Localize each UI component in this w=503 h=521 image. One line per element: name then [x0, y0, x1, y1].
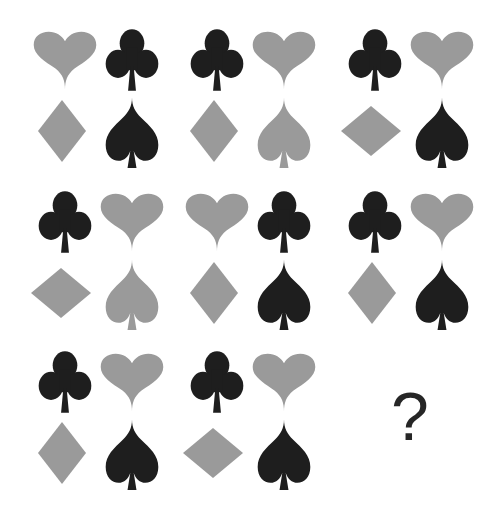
club-icon	[189, 350, 245, 414]
club-icon	[256, 190, 312, 254]
diamond-icon	[183, 428, 243, 478]
puzzle-cell-1	[33, 28, 158, 173]
heart-icon	[183, 192, 251, 254]
heart-icon	[250, 352, 318, 414]
heart-icon	[31, 30, 99, 92]
club-icon	[104, 28, 160, 92]
puzzle-cell-8	[185, 350, 310, 495]
missing-cell-question-mark: ?	[370, 382, 450, 450]
puzzle-cell-3	[343, 28, 468, 173]
diamond-icon	[190, 100, 238, 162]
heart-icon	[408, 30, 476, 92]
spade-icon	[256, 418, 312, 490]
heart-icon	[408, 192, 476, 254]
heart-icon	[98, 352, 166, 414]
spade-icon	[104, 258, 160, 330]
diamond-icon	[38, 422, 86, 484]
club-icon	[347, 190, 403, 254]
club-icon	[189, 28, 245, 92]
spade-icon	[256, 96, 312, 168]
spade-icon	[414, 258, 470, 330]
heart-icon	[250, 30, 318, 92]
puzzle-cell-2	[185, 28, 310, 173]
heart-icon	[98, 192, 166, 254]
spade-icon	[104, 418, 160, 490]
puzzle-cell-4	[33, 190, 158, 335]
puzzle-cell-5	[185, 190, 310, 335]
puzzle-cell-7	[33, 350, 158, 495]
club-icon	[37, 350, 93, 414]
diamond-icon	[38, 100, 86, 162]
club-icon	[347, 28, 403, 92]
puzzle-cell-6	[343, 190, 468, 335]
spade-icon	[256, 258, 312, 330]
spade-icon	[414, 96, 470, 168]
diamond-icon	[31, 268, 91, 318]
spade-icon	[104, 96, 160, 168]
diamond-icon	[341, 106, 401, 156]
diamond-icon	[348, 262, 396, 324]
diamond-icon	[190, 262, 238, 324]
club-icon	[37, 190, 93, 254]
